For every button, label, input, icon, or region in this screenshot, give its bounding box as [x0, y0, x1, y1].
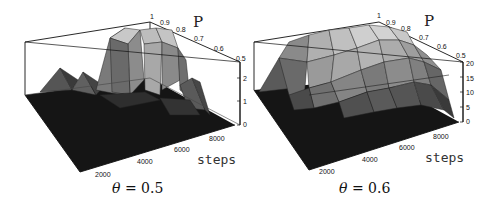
- p-tick-1: 1: [377, 12, 381, 19]
- z-tick-1: 1: [243, 98, 247, 105]
- p-tick-0.9: 0.9: [386, 19, 396, 26]
- steps-tick-2000: 2000: [319, 168, 335, 175]
- z-tick-5: 5: [466, 104, 470, 111]
- z-tick-2: 2: [243, 75, 247, 82]
- z-tick-0: 0: [243, 121, 247, 128]
- p-tick-0.7: 0.7: [419, 34, 429, 41]
- axis-label-steps: steps: [197, 152, 236, 167]
- surface-plot-1: 0 1 2 1 0.9 0.8 0.7 0.6 0.5 2000 4000 60…: [0, 0, 248, 205]
- z-tick-15: 15: [466, 75, 474, 82]
- steps-tick-8000: 8000: [209, 135, 225, 142]
- steps-tick-6000: 6000: [174, 146, 190, 153]
- theta-symbol: θ: [112, 180, 120, 196]
- p-tick-0.9: 0.9: [160, 19, 170, 26]
- chart-panel-theta-0-6: 0 5 10 15 20 1 0.9 0.8 0.7 0.6 0.5 2000 …: [249, 0, 497, 205]
- p-tick-1: 1: [150, 13, 154, 20]
- steps-tick-4000: 4000: [137, 158, 153, 165]
- p-tick-0.6: 0.6: [214, 45, 224, 52]
- caption-theta: θ = 0.6: [339, 180, 390, 196]
- axis-label-steps: steps: [425, 150, 464, 165]
- p-tick-0.5: 0.5: [456, 52, 466, 59]
- chart-panel-theta-0-5: 0 1 2 1 0.9 0.8 0.7 0.6 0.5 2000 4000 60…: [0, 0, 248, 205]
- z-tick-20: 20: [466, 60, 474, 67]
- axis-label-p: P: [424, 12, 434, 30]
- theta-value: = 0.5: [125, 180, 163, 196]
- p-tick-0.5: 0.5: [236, 55, 246, 62]
- p-tick-0.6: 0.6: [437, 43, 447, 50]
- steps-tick-2000: 2000: [95, 171, 111, 178]
- z-tick-0: 0: [466, 118, 470, 125]
- steps-tick-4000: 4000: [362, 156, 378, 163]
- surface-plot-2: 0 5 10 15 20 1 0.9 0.8 0.7 0.6 0.5 2000 …: [249, 0, 497, 205]
- z-tick-10: 10: [466, 89, 474, 96]
- caption-theta: θ = 0.5: [112, 180, 163, 196]
- theta-value: = 0.6: [352, 180, 390, 196]
- axis-label-p: P: [193, 13, 203, 31]
- steps-tick-8000: 8000: [433, 133, 449, 140]
- steps-tick-6000: 6000: [399, 144, 415, 151]
- p-tick-0.8: 0.8: [401, 25, 411, 32]
- theta-symbol: θ: [339, 180, 347, 196]
- p-tick-0.7: 0.7: [194, 35, 204, 42]
- p-tick-0.8: 0.8: [176, 26, 186, 33]
